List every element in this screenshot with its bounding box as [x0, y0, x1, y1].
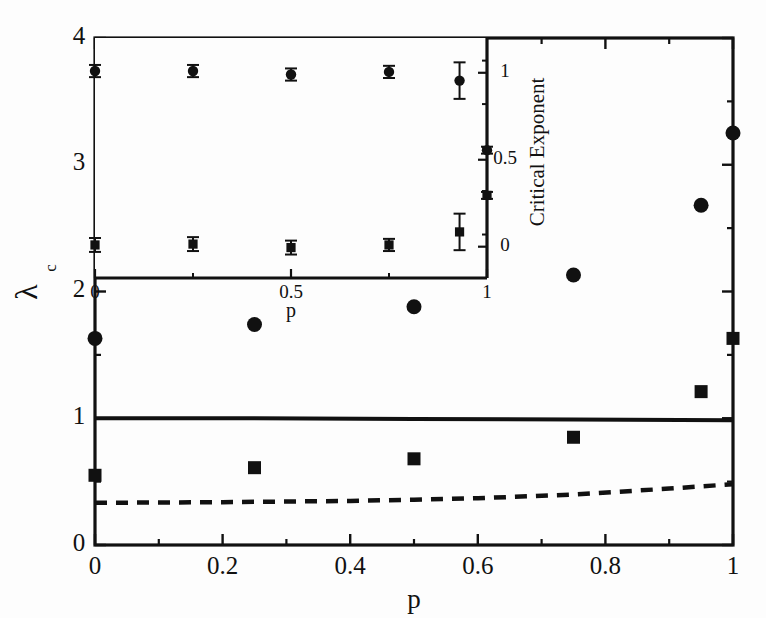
inset-x-axis-title: p — [286, 299, 296, 322]
figure-container: 00.20.40.60.8101234pλc00.5100.51pCritica… — [0, 0, 766, 618]
data-point-circle — [566, 268, 581, 283]
y-tick-label: 2 — [73, 275, 86, 302]
data-point-square — [727, 332, 740, 345]
inset-data-point-circle — [188, 66, 198, 76]
data-point-circle — [694, 198, 709, 213]
data-point-square — [408, 452, 421, 465]
x-axis-title: p — [407, 584, 421, 614]
inset-x-tick-label: 1 — [482, 281, 492, 302]
y-tick-label: 4 — [73, 22, 86, 49]
y-tick-label: 1 — [73, 402, 86, 429]
y-axis-title: λ — [8, 284, 44, 300]
inset-y-tick-label: 0 — [500, 234, 510, 255]
critical-lambda-plot: 00.20.40.60.8101234pλc00.5100.51pCritica… — [0, 0, 766, 618]
inset-data-point-circle — [286, 69, 296, 79]
inset-data-point-square — [455, 227, 464, 236]
data-point-circle — [88, 331, 103, 346]
data-point-square — [248, 461, 261, 474]
inset-data-point-circle — [384, 67, 394, 77]
x-tick-label: 0.4 — [335, 552, 367, 579]
inset-data-point-square — [384, 240, 393, 249]
y-tick-label: 0 — [73, 529, 86, 556]
x-tick-label: 0 — [89, 552, 102, 579]
x-tick-label: 1 — [727, 552, 740, 579]
data-point-square — [695, 385, 708, 398]
y-tick-label: 3 — [73, 148, 86, 175]
inset-data-point-square — [90, 240, 99, 249]
data-point-square — [89, 469, 102, 482]
inset-y-tick-label: 0.5 — [493, 147, 517, 168]
dashed-reference-curve — [95, 484, 733, 503]
inset-data-point-circle — [454, 75, 464, 85]
inset-y-axis-title: Critical Exponent — [525, 77, 549, 226]
x-tick-label: 0.6 — [462, 552, 493, 579]
data-point-circle — [247, 317, 262, 332]
data-point-circle — [726, 126, 741, 141]
inset-y-tick-label: 1 — [500, 60, 510, 81]
y-axis-title-subscript: c — [41, 264, 60, 272]
inset-x-tick-label: 0 — [90, 281, 100, 302]
solid-reference-curve — [95, 418, 733, 420]
inset-data-point-circle — [90, 66, 100, 76]
inset-data-point-circle — [482, 145, 492, 155]
data-point-circle — [407, 299, 422, 314]
inset-data-point-square — [286, 243, 295, 252]
x-tick-label: 0.2 — [207, 552, 238, 579]
x-tick-label: 0.8 — [590, 552, 621, 579]
data-point-square — [567, 431, 580, 444]
inset-data-point-square — [188, 239, 197, 248]
inset-data-point-square — [482, 191, 491, 200]
